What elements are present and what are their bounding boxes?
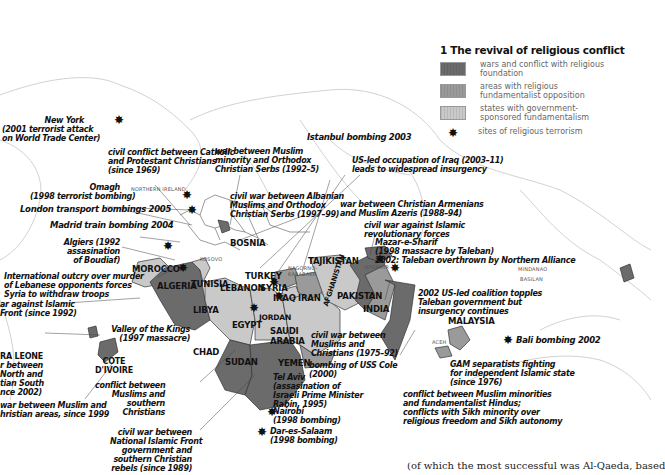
annotation-algiers: Algiers (1992 assasination of Boudiaf) bbox=[40, 238, 120, 265]
starburst-icon: ✸ bbox=[440, 127, 466, 139]
annotation-afghan-2002: 2002 US-led coalition topples Taleban go… bbox=[418, 289, 542, 316]
starburst-icon: ✸ bbox=[163, 240, 173, 252]
label-malaysia: MALAYSIA bbox=[448, 316, 495, 326]
label-cote-divoire: COTE D'IVOIRE bbox=[95, 357, 133, 375]
annotation-cote: war between Muslim and hristian areas, s… bbox=[0, 401, 109, 419]
starburst-icon: ✸ bbox=[114, 114, 124, 126]
label-iraq: IRAQ bbox=[273, 293, 296, 303]
annotation-dar-es-salaam: Dar-es-Salaam (1998 bombing) bbox=[270, 427, 338, 445]
annotation-madrid: Madrid train bombing 2004 bbox=[50, 221, 173, 230]
starburst-icon: ✸ bbox=[249, 302, 259, 314]
annotation-algeria-war: ar against Islamic Front (since 1992) bbox=[0, 300, 77, 318]
label-kosovo: KOSOVO bbox=[200, 256, 222, 262]
annotation-india: conflict between Muslim minorities and f… bbox=[403, 390, 562, 426]
annotation-nairobi: Nairobi (1998 bombing) bbox=[273, 407, 341, 425]
annotation-omagh: Omagh (1998 terrorist bombing) bbox=[30, 183, 120, 201]
annotation-sierra-leone: r between North and tian South nce 2002) bbox=[0, 361, 44, 397]
annotation-tajik: civil war against Islamic revolutionary … bbox=[364, 221, 465, 239]
label-iran: IRAN bbox=[298, 293, 321, 303]
annotation-lebanon-war: civil war between Muslims and Christians… bbox=[311, 331, 398, 358]
annotation-gam: GAM separatists fighting for independent… bbox=[450, 360, 575, 387]
annotation-lebanon-outcry: International outcry over murder of Leba… bbox=[4, 272, 144, 299]
annotation-iraq: US-led occupation of Iraq (2003–11) lead… bbox=[352, 156, 503, 174]
label-saudi-arabia: SAUDI ARABIA bbox=[270, 326, 305, 346]
label-india: INDIA bbox=[363, 304, 389, 314]
starburst-icon: ✸ bbox=[257, 426, 267, 438]
legend-swatch-state bbox=[440, 106, 466, 120]
label-yemen: YEMEN bbox=[278, 358, 310, 368]
annotation-new-york: New York (2001 terrorist attack on World… bbox=[2, 116, 84, 143]
annotation-mazar: Mazar-e-Sharif (1998 massacre by Taleban… bbox=[375, 238, 575, 265]
label-sierra-leone: RA LEONE bbox=[0, 352, 43, 361]
label-jordan: JORDAN bbox=[259, 313, 291, 322]
annotation-kosovo-war: civil war between Albanian Muslims and O… bbox=[230, 192, 344, 219]
label-lebanon: LEBANON bbox=[220, 283, 264, 293]
label-mindanao: MINDANAO bbox=[518, 266, 547, 272]
aceh-region bbox=[435, 346, 452, 358]
label-sudan: SUDAN bbox=[225, 357, 258, 367]
annotation-london: London transport bombings 2005 bbox=[20, 205, 171, 214]
label-northern-ireland: NORTHERN IRELAND bbox=[131, 186, 186, 192]
annotation-bosnia-war: war between Muslim minority and Orthodox… bbox=[215, 147, 319, 174]
annotation-tel-aviv: Tel Aviv (assasination of Israeli Prime … bbox=[273, 373, 363, 409]
legend-item-wars: wars and conflict with religious foundat… bbox=[440, 60, 604, 78]
legend-item-terrorism: ✸ sites of religious terrorism bbox=[440, 127, 583, 139]
label-basilan: BASILAN bbox=[520, 276, 543, 282]
annotation-armenia: war between Christian Armenians and Musl… bbox=[340, 200, 484, 218]
label-turkey: TURKEY bbox=[245, 271, 282, 281]
legend-item-state: states with government- sponsored fundam… bbox=[440, 104, 589, 122]
annotation-valley-of-kings: Valley of the Kings (1997 massacre) bbox=[110, 325, 190, 343]
legend-swatch-wars bbox=[440, 62, 466, 76]
label-bosnia: BOSNIA bbox=[230, 238, 265, 248]
label-chad: CHAD bbox=[193, 347, 219, 357]
starburst-icon: ✸ bbox=[187, 204, 197, 216]
page-caption: (of which the most successful was Al-Qae… bbox=[407, 460, 665, 471]
legend-title: 1 The revival of religious conflict bbox=[440, 44, 624, 56]
label-egypt: EGYPT bbox=[232, 320, 262, 330]
chad-region bbox=[215, 340, 252, 395]
label-libya: LIBYA bbox=[193, 305, 219, 315]
annotation-bali: Bali bombing 2002 bbox=[516, 336, 600, 345]
annotation-istanbul: Istanbul bombing 2003 bbox=[307, 133, 411, 142]
legend-swatch-opposition bbox=[440, 84, 466, 98]
starburst-icon: ✸ bbox=[503, 334, 513, 346]
annotation-sudan: civil war between National Islamic Front… bbox=[110, 428, 192, 473]
sierra-region bbox=[88, 326, 98, 338]
label-nagorno-karabakh: NAGORNO- KARABAKH bbox=[288, 265, 318, 277]
malaysia-region bbox=[448, 326, 470, 350]
label-pakistan: PAKISTAN bbox=[337, 291, 382, 301]
bosnia-region bbox=[218, 220, 230, 233]
legend-item-opposition: areas with religious fundamentalist oppo… bbox=[440, 82, 585, 100]
label-aceh: ACEH bbox=[432, 339, 447, 345]
label-tajikistan: TAJIKISTAN bbox=[308, 256, 359, 266]
label-syria: SYRIA bbox=[260, 283, 288, 293]
mindanao-region bbox=[620, 264, 634, 282]
